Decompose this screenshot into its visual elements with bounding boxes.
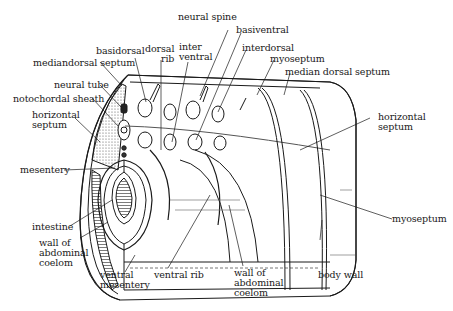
label-basidorsal: basidorsal: [96, 46, 145, 56]
label-horizontal-septum-left: horizontal septum: [32, 110, 80, 130]
label-ventral-rib: ventral rib: [154, 270, 204, 280]
label-notochordal-sheath: notochordal sheath: [13, 94, 104, 104]
label-interventral: inter ventral: [179, 42, 212, 62]
label-interdorsal: interdorsal: [242, 43, 294, 53]
label-ventral-mesentery: ventral mesentery: [100, 270, 150, 290]
label-mesentery: mesentery: [20, 165, 70, 175]
label-dorsal-rib: dorsal rib: [145, 44, 174, 64]
diagram-canvas: neural spine basidorsal dorsal rib inter…: [0, 0, 453, 311]
label-median-dorsal-septum: median dorsal septum: [285, 67, 390, 77]
label-mediandorsal-septum: mediandorsal septum: [33, 58, 135, 68]
label-myoseptum-top: myoseptum: [270, 54, 325, 64]
label-neural-spine: neural spine: [178, 12, 237, 22]
label-myoseptum-right: myoseptum: [392, 214, 447, 224]
label-horizontal-septum-right: horizontal septum: [378, 112, 426, 132]
label-intestine: intestine: [32, 222, 73, 232]
label-wall-of-abdominal-coelom-right: wall of abdominal coelom: [234, 268, 284, 298]
label-basiventral: basiventral: [236, 25, 289, 35]
label-wall-of-abdominal-coelom-left: wall of abdominal coelom: [39, 238, 89, 268]
label-body-wall: body wall: [318, 270, 363, 280]
label-neural-tube: neural tube: [54, 80, 109, 90]
